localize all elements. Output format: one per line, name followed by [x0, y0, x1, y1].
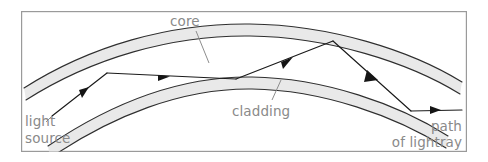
core-label: core	[170, 13, 200, 29]
diagram-canvas: core cladding light source path of light…	[0, 0, 488, 162]
ray-segment-2	[107, 73, 236, 79]
optical-fibre-diagram: core cladding light source path of light…	[0, 0, 488, 162]
ray-arrow-4	[364, 70, 378, 82]
ray-arrow-exit	[430, 106, 441, 114]
light-source-label-line2: source	[25, 130, 70, 146]
light-source-label-line1: light	[25, 113, 55, 129]
path-label-line1: path	[431, 118, 462, 134]
ray-arrow-entry	[79, 87, 89, 98]
cladding-label: cladding	[232, 103, 290, 119]
path-label-line2: of lightray	[392, 134, 462, 150]
upper-band-inner-edge	[26, 36, 460, 100]
ray-segment-3	[236, 41, 333, 79]
lower-band-outer-edge	[50, 89, 446, 158]
